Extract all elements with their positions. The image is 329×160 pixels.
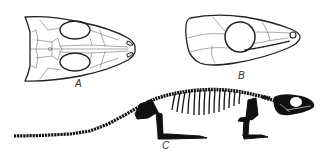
figure-drawing (0, 0, 329, 160)
ribs (172, 90, 240, 115)
fore-limb (238, 98, 268, 139)
panel-label-c: C (162, 141, 169, 151)
right-orbit (60, 53, 90, 71)
skeleton-skull (273, 94, 314, 115)
skull-dorsal-view (25, 17, 135, 82)
tail-vertebrae (14, 101, 150, 136)
hind-limb (135, 100, 207, 139)
skull-lateral-view (186, 15, 300, 65)
panel-label-a: A (75, 79, 82, 89)
orbit (225, 22, 255, 52)
skeleton-lateral-view (14, 90, 314, 139)
panel-label-b: B (238, 71, 245, 81)
naris (290, 32, 296, 38)
left-orbit (60, 21, 90, 39)
anatomical-figure: A B C (0, 0, 329, 160)
